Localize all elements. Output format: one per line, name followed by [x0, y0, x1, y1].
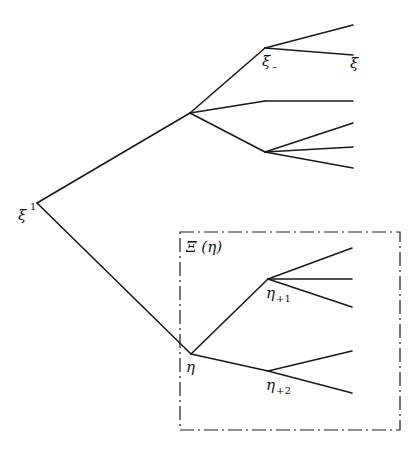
- root-superscript: 1: [30, 201, 36, 212]
- eta-plus2-subscript: +2: [276, 385, 291, 396]
- box-title: Ξ (η): [185, 238, 222, 256]
- eta-plus2-label: η: [266, 376, 275, 394]
- xi-label: ξ: [350, 54, 359, 72]
- tree-diagram: ξ 1 ξ – ξ Ξ (η) η η +1 η +2: [0, 0, 409, 456]
- eta-label: η: [186, 358, 195, 376]
- tree-edge: [190, 113, 265, 152]
- tree-edge: [265, 152, 353, 168]
- subtree-box: [180, 232, 400, 430]
- tree-edge: [191, 354, 268, 371]
- root-label: ξ: [18, 206, 27, 224]
- tree-edge: [265, 48, 353, 55]
- tree-edge: [191, 279, 268, 354]
- tree-edge: [265, 25, 353, 48]
- tree-edge: [37, 113, 190, 203]
- eta-plus1-label: η: [266, 284, 275, 302]
- tree-edge: [268, 248, 352, 279]
- xi-minus-label: ξ: [262, 52, 271, 70]
- xi-minus-subscript: –: [272, 61, 277, 72]
- eta-plus1-subscript: +1: [276, 293, 291, 304]
- tree-edge: [37, 203, 191, 354]
- tree-edges: [37, 25, 353, 393]
- tree-edge: [268, 351, 352, 371]
